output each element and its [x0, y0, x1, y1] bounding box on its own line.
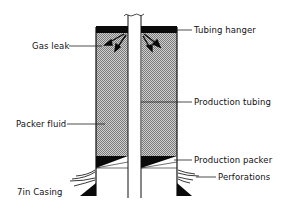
label-perforations: Perforations: [218, 172, 270, 182]
label-tubing-hanger: Tubing hanger: [194, 25, 256, 35]
label-gas-leak: Gas leak: [32, 41, 69, 51]
label-production-packer: Production packer: [194, 155, 272, 165]
right-annulus: [142, 27, 177, 196]
tubing-hanger: [96, 26, 177, 33]
label-packer-fluid: Packer fluid: [16, 119, 66, 129]
perforations-right: [178, 170, 199, 183]
casing-shoe: [80, 183, 192, 196]
production-packer: [96, 156, 177, 168]
left-annulus: [96, 27, 128, 196]
label-casing: 7in Casing: [17, 187, 63, 197]
well-diagram: Gas leak Tubing hanger Production tubing…: [0, 0, 283, 211]
label-production-tubing: Production tubing: [194, 97, 271, 107]
perforations-left: [70, 170, 95, 186]
